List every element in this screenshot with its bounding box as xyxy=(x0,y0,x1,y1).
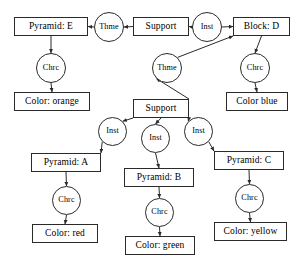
node-label: Thme xyxy=(99,23,119,31)
node-label: Color: orange xyxy=(25,97,79,107)
node-color_yellow[interactable]: Color: yellow xyxy=(214,222,287,241)
node-pyramid_b[interactable]: Pyramid: B xyxy=(124,168,194,187)
node-label: Chrc xyxy=(151,208,167,216)
node-label: Color: yellow xyxy=(224,227,278,237)
node-thme_mid[interactable]: Thme xyxy=(152,53,182,83)
node-label: Chrc xyxy=(241,194,257,202)
edge-support_top-to-thme_top xyxy=(124,27,133,28)
edge-block_d-to-chrc_d xyxy=(255,36,262,53)
edge-chrc_b-to-color_green xyxy=(160,227,161,236)
node-label: Support xyxy=(146,104,177,114)
edge-inst_b-to-pyramid_b xyxy=(156,153,160,168)
node-chrc_b[interactable]: Chrc xyxy=(145,198,174,227)
node-inst_top[interactable]: Inst xyxy=(192,12,222,42)
node-label: Pyramid: E xyxy=(29,22,73,32)
node-label: Inst xyxy=(201,23,214,31)
node-support_top[interactable]: Support xyxy=(133,17,189,36)
node-label: Pyramid: C xyxy=(227,156,272,166)
node-label: Inst xyxy=(149,134,162,142)
node-label: Color: red xyxy=(45,229,85,239)
node-inst_b[interactable]: Inst xyxy=(141,124,170,153)
edge-pyramid_c-to-chrc_c xyxy=(249,170,250,184)
node-label: Inst xyxy=(192,127,205,135)
node-chrc_d[interactable]: Chrc xyxy=(240,53,270,83)
edge-inst_a-to-pyramid_a xyxy=(101,142,102,153)
node-chrc_e[interactable]: Chrc xyxy=(36,53,66,83)
edge-chrc_d-to-color_blue xyxy=(255,83,257,92)
node-label: Pyramid: B xyxy=(137,173,182,183)
node-label: Chrc xyxy=(43,64,59,72)
node-pyramid_c[interactable]: Pyramid: C xyxy=(214,151,284,170)
edge-chrc_e-to-color_orange xyxy=(51,83,52,92)
node-label: Chrc xyxy=(247,64,263,72)
node-pyramid_a[interactable]: Pyramid: A xyxy=(31,153,101,172)
diagram-canvas: Pyramid: EThmeSupportInstBlock: DChrcCol… xyxy=(0,0,301,261)
node-support_mid[interactable]: Support xyxy=(133,99,189,118)
node-label: Thme xyxy=(157,64,177,72)
edge-support_mid-to-inst_a xyxy=(123,118,133,121)
edge-inst_top-to-block_d xyxy=(222,27,233,28)
node-color_red[interactable]: Color: red xyxy=(32,224,98,243)
node-label: Support xyxy=(146,22,177,32)
node-pyramid_e[interactable]: Pyramid: E xyxy=(14,17,88,36)
edge-chrc_a-to-color_red xyxy=(65,215,67,224)
node-label: Inst xyxy=(106,127,119,135)
node-inst_a[interactable]: Inst xyxy=(98,117,127,146)
edge-pyramid_a-to-chrc_a xyxy=(66,172,67,186)
edge-inst_c-to-pyramid_c xyxy=(209,142,214,151)
node-color_green[interactable]: Color: green xyxy=(125,236,195,255)
node-chrc_a[interactable]: Chrc xyxy=(52,186,81,215)
node-label: Color blue xyxy=(236,97,277,107)
node-color_orange[interactable]: Color: orange xyxy=(14,92,90,111)
node-label: Block: D xyxy=(244,22,279,32)
node-color_blue[interactable]: Color blue xyxy=(226,92,288,111)
edge-pyramid_b-to-chrc_b xyxy=(159,187,160,198)
node-label: Color: green xyxy=(136,241,185,251)
node-thme_top[interactable]: Thme xyxy=(94,12,124,42)
edge-chrc_c-to-color_yellow xyxy=(250,213,251,222)
node-inst_c[interactable]: Inst xyxy=(184,117,213,146)
node-label: Pyramid: A xyxy=(44,158,89,168)
node-chrc_c[interactable]: Chrc xyxy=(235,184,264,213)
node-block_d[interactable]: Block: D xyxy=(233,17,290,36)
node-label: Chrc xyxy=(58,196,74,204)
